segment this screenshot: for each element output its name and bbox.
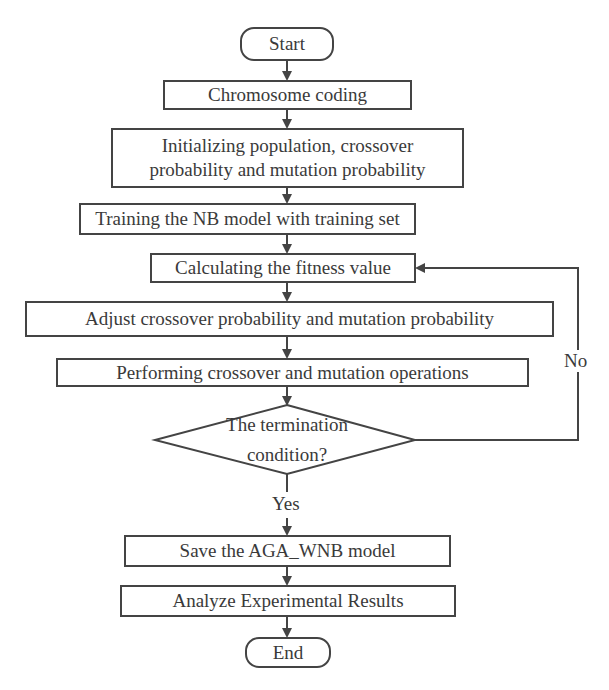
performing-operations-box: Performing crossover and mutation operat…	[56, 358, 529, 387]
initializing-line-1: Initializing population, crossover	[162, 134, 414, 158]
decision-line-1: The termination	[195, 410, 379, 440]
analyze-results-box: Analyze Experimental Results	[120, 585, 456, 617]
calculating-fitness-box: Calculating the fitness value	[150, 253, 416, 283]
initializing-box: Initializing population, crossover proba…	[111, 128, 464, 188]
initializing-line-2: probability and mutation probability	[150, 158, 426, 182]
save-model-box: Save the AGA_WNB model	[124, 535, 451, 567]
chromosome-coding-box: Chromosome coding	[163, 80, 412, 110]
no-label: No	[562, 350, 589, 372]
start-node: Start	[240, 27, 334, 61]
end-node: End	[245, 637, 331, 668]
training-box: Training the NB model with training set	[79, 203, 416, 235]
adjust-probability-box: Adjust crossover probability and mutatio…	[25, 301, 554, 337]
decision-line-2: condition?	[195, 440, 379, 470]
yes-label: Yes	[270, 493, 302, 515]
decision-text: The termination condition?	[195, 410, 379, 470]
